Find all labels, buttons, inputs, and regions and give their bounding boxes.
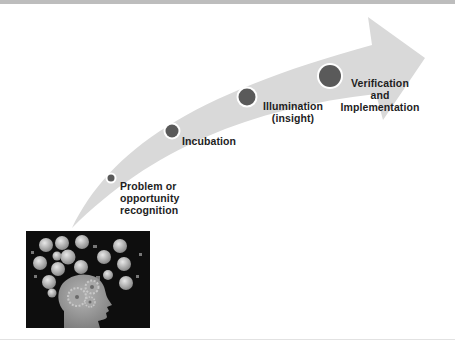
label-line: Verification bbox=[338, 77, 422, 89]
label-line: (insight) bbox=[258, 112, 328, 124]
label-line: Problem or bbox=[120, 180, 179, 192]
creative-mind-illustration bbox=[26, 231, 150, 328]
label-line: Illumination bbox=[258, 100, 328, 112]
label-line: and bbox=[338, 89, 422, 101]
stage-node-incubation bbox=[164, 123, 181, 140]
bottom-divider bbox=[0, 339, 455, 340]
label-line: opportunity bbox=[120, 192, 179, 204]
label-line: recognition bbox=[120, 204, 179, 216]
stage-label-illumination: Illumination (insight) bbox=[258, 100, 328, 124]
head-with-ideas-icon bbox=[26, 231, 150, 328]
stage-node-problem bbox=[106, 173, 117, 184]
stage-node-illumination bbox=[237, 87, 258, 108]
label-line: Implementation bbox=[338, 101, 422, 113]
stage-label-verification: Verification and Implementation bbox=[338, 77, 422, 113]
stage-label-problem: Problem or opportunity recognition bbox=[120, 180, 179, 216]
label-line: Incubation bbox=[182, 135, 236, 147]
stage-label-incubation: Incubation bbox=[182, 135, 236, 147]
